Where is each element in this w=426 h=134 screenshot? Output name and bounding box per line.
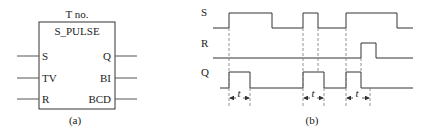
- output-q: Q: [103, 50, 111, 62]
- output-bcd: BCD: [88, 93, 111, 105]
- input-r: R: [42, 93, 50, 105]
- block-name: S_PULSE: [54, 25, 100, 37]
- input-s: S: [42, 50, 48, 62]
- duration-label-1: t: [237, 87, 241, 99]
- waveform-s: [213, 13, 413, 28]
- signal-label-q: Q: [201, 66, 209, 78]
- block-number: T no.: [65, 8, 88, 20]
- input-tv: TV: [42, 72, 57, 84]
- waveform-r: [213, 43, 413, 58]
- caption-a: (a): [69, 114, 82, 127]
- output-bi: BI: [100, 72, 111, 84]
- duration-label-3: t: [355, 87, 359, 99]
- waveform-q: [220, 72, 413, 88]
- function-block: T no. S_PULSE S TV R Q BI BCD (a): [17, 8, 137, 127]
- timing-diagram: S R Q t t t: [201, 6, 413, 127]
- duration-label-2: t: [311, 87, 315, 99]
- signal-label-s: S: [201, 6, 207, 18]
- dashed-guides: [229, 28, 370, 106]
- s-pulse-figure: T no. S_PULSE S TV R Q BI BCD (a) S R Q: [0, 0, 426, 134]
- caption-b: (b): [306, 114, 319, 127]
- signal-label-r: R: [201, 37, 209, 49]
